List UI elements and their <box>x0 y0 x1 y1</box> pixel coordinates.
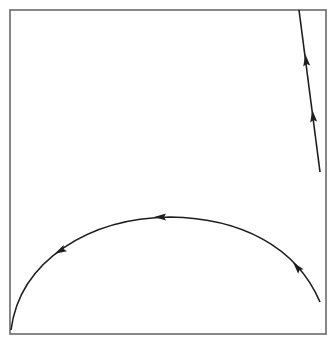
trajectory-arc <box>11 217 320 330</box>
diagram-frame <box>10 10 326 334</box>
trajectories-group <box>11 10 320 330</box>
diagram-canvas <box>0 0 336 344</box>
trajectory-steep-line <box>299 10 320 172</box>
phase-diagram <box>0 0 336 344</box>
